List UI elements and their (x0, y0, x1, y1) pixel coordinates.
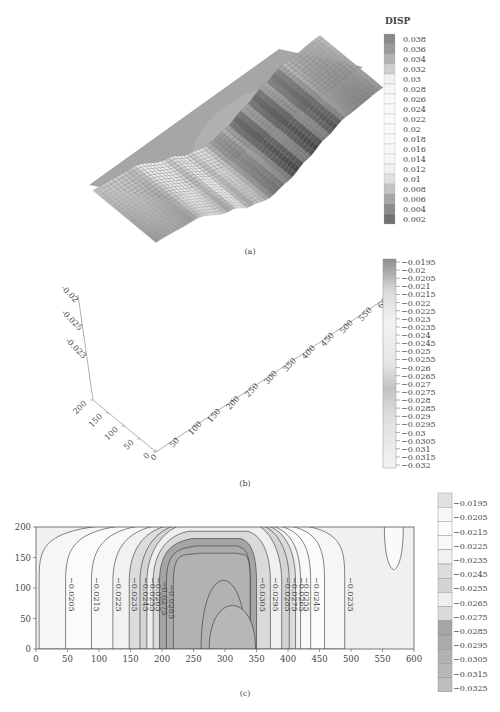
legend-label: 0.002 (403, 215, 426, 224)
colorbar-c-swatch (438, 578, 452, 592)
legend-swatch (384, 154, 395, 164)
x-tick-label-b: 500 (338, 318, 355, 335)
y-tick-label-c: 50 (20, 614, 31, 624)
legend-swatch (384, 174, 395, 184)
colorbar-c-swatch (438, 536, 452, 550)
contour-label: −0.0235 (130, 577, 139, 612)
legend-swatch (384, 104, 395, 114)
colorbar-c-label: −0.0295 (453, 641, 488, 650)
y-tick-label-c: 200 (15, 522, 31, 532)
legend-label: 0.022 (403, 115, 426, 124)
legend-swatch (384, 214, 395, 224)
colorbar-c-swatch (438, 521, 452, 535)
colorbar-c-label: −0.0325 (453, 684, 488, 693)
colorbar-c-swatch (438, 564, 452, 578)
contour-label: −0.0225 (114, 577, 123, 612)
contour-label: −0.0305 (258, 577, 267, 612)
contour-label: −0.0285 (167, 584, 176, 619)
colorbar-c-label: −0.0235 (453, 556, 488, 565)
x-tick-label-c: 200 (154, 654, 170, 664)
legend-label: 0.036 (403, 45, 426, 54)
contour-label: −0.0255 (302, 577, 311, 612)
y-tick-label-c: 100 (15, 583, 31, 593)
x-tick-label-c: 550 (374, 654, 390, 664)
x-tick-label-c: 50 (62, 654, 73, 664)
x-tick-label-c: 450 (311, 654, 327, 664)
legend-label: 0.014 (403, 155, 426, 164)
y-tick-label-b: 0 (141, 451, 151, 461)
surface-plot (93, 36, 383, 243)
colorbar-c-label: −0.0195 (453, 499, 488, 508)
x-tick-label-b: 350 (281, 356, 298, 373)
x-tick-label-c: 100 (91, 654, 107, 664)
legend-swatch (384, 204, 395, 214)
contour-plot: −0.0205−0.0215−0.0225−0.0235−0.0245−0.02… (15, 522, 422, 664)
legend-label: 0.028 (403, 85, 426, 94)
legend-label: 0.008 (403, 185, 426, 194)
colorbar-c-swatch (438, 621, 452, 635)
x-tick-label-c: 300 (217, 654, 233, 664)
legend-label: 0.012 (403, 165, 426, 174)
x-tick-label-b: 150 (206, 407, 223, 424)
colorbar-b-ticks: −0.0195−0.02−0.0205−0.021−0.0215−0.022−0… (396, 258, 436, 470)
legend-swatch (384, 144, 395, 154)
legend-label: 0.02 (403, 125, 421, 134)
colorbar-b (383, 259, 396, 468)
legend-label: 0.03 (403, 75, 421, 84)
x-tick-label-c: 500 (343, 654, 359, 664)
colorbar-c-swatch (438, 678, 452, 692)
colorbar-c-label: −0.0245 (453, 570, 488, 579)
colorbar-c-swatch (438, 635, 452, 649)
legend-label: 0.038 (403, 35, 426, 44)
x-tick-label-b: 450 (319, 331, 336, 348)
x-tick-label-c: 150 (122, 654, 138, 664)
legend-swatch (384, 84, 395, 94)
x-tick-label-b: 550 (357, 306, 374, 323)
colorbar-c-swatch (438, 649, 452, 663)
x-tick-label-c: 0 (33, 654, 38, 664)
legend-label: 0.034 (403, 55, 426, 64)
z-tick-label-b: -0.02 (59, 284, 80, 305)
x-tick-label-c: 400 (280, 654, 296, 664)
legend-swatch (384, 74, 395, 84)
legend-swatch (384, 34, 395, 44)
colorbar-c-label: −0.0255 (453, 584, 488, 593)
colorbar-c-label: −0.0315 (453, 670, 488, 679)
colorbar-b-label: −0.032 (401, 461, 431, 470)
colorbar-c-swatch (438, 550, 452, 564)
colorbar-c-label: −0.0225 (453, 542, 488, 551)
legend-label: 0.026 (403, 95, 426, 104)
contour-label: −0.0245 (312, 577, 321, 612)
legend-label: 0.004 (403, 205, 426, 214)
colorbar-c-label: −0.0305 (453, 655, 488, 664)
colorbar-c: −0.0195−0.0205−0.0215−0.0225−0.0235−0.02… (438, 493, 488, 693)
colorbar-c-label: −0.0215 (453, 528, 488, 537)
contour-label: −0.0295 (271, 577, 280, 612)
x-tick-label-b: 300 (262, 369, 279, 386)
caption-a: (a) (244, 247, 255, 256)
surface-axes: 0501001502002503003504004505005506000501… (59, 284, 392, 463)
contour-label: −0.0235 (346, 577, 355, 612)
x-tick-label-c: 600 (406, 654, 422, 664)
colorbar-c-label: −0.0275 (453, 613, 488, 622)
legend-label: 0.01 (403, 175, 421, 184)
legend-swatch (384, 54, 395, 64)
colorbar-c-label: −0.0265 (453, 599, 488, 608)
colorbar-c-swatch (438, 507, 452, 521)
colorbar-c-swatch (438, 592, 452, 606)
colorbar-c-swatch (438, 607, 452, 621)
x-tick-label-b: 200 (224, 394, 241, 411)
x-tick-label-c: 350 (248, 654, 264, 664)
legend-label: 0.032 (403, 65, 426, 74)
legend-label: 0.018 (403, 135, 426, 144)
legend-swatch (384, 64, 395, 74)
legend-swatch (384, 44, 395, 54)
legend-label: 0.016 (403, 145, 426, 154)
legend-label: 0.024 (403, 105, 426, 114)
x-tick-label-b: 50 (168, 436, 182, 450)
legend-title: DISP (385, 16, 411, 26)
x-tick-label-c: 250 (185, 654, 201, 664)
y-tick-label-b: 50 (122, 438, 136, 452)
legend-swatch (384, 164, 395, 174)
colorbar-c-swatch (438, 493, 452, 507)
